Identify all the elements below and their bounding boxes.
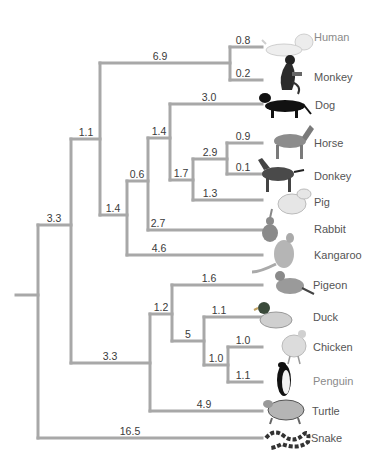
rabbit-icon — [262, 209, 278, 242]
taxon-label-dog: Dog — [315, 100, 335, 111]
taxon-label-donkey: Donkey — [314, 171, 351, 182]
branch-label-horse: 0.9 — [236, 131, 251, 142]
snake-icon — [266, 432, 309, 448]
pigeon-icon — [275, 271, 314, 294]
taxon-label-pig: Pig — [314, 197, 330, 208]
taxon-label-snake: Snake — [311, 433, 342, 444]
taxon-label-monkey: Monkey — [314, 72, 353, 83]
branch-label-internal: 3.3 — [103, 351, 118, 362]
branch-label-human: 0.8 — [236, 35, 251, 46]
branch-label-internal: 1.1 — [79, 127, 94, 138]
turtle-icon — [263, 400, 304, 424]
branch-label-pigeon: 1.6 — [202, 273, 217, 284]
branch-label-penguin: 1.1 — [236, 370, 251, 381]
taxon-label-penguin: Penguin — [313, 376, 353, 387]
phylogenetic-tree-diagram: 0.8 0.2 3.0 0.9 0.1 1.3 2.7 4.6 1.6 1.1 … — [0, 0, 378, 466]
branch-label-dog: 3.0 — [202, 92, 217, 103]
duck-icon — [254, 302, 292, 328]
branch-label-internal: 6.9 — [153, 51, 168, 62]
branch-label-kangaroo: 4.6 — [152, 243, 167, 254]
taxon-label-duck: Duck — [313, 312, 338, 323]
monkey-icon — [281, 55, 302, 94]
branch-label-internal: 0.6 — [130, 169, 145, 180]
branch-label-internal: 1.4 — [106, 203, 121, 214]
branch-label-internal: 1.0 — [209, 353, 224, 364]
branch-label-internal: 3.3 — [47, 213, 62, 224]
branch-label-snake: 16.5 — [120, 426, 140, 437]
dog-icon — [259, 93, 311, 118]
branch-label-pig: 1.3 — [203, 188, 218, 199]
branch-label-internal: 1.7 — [174, 168, 189, 179]
branch-label-monkey: 0.2 — [236, 68, 251, 79]
taxon-label-rabbit: Rabbit — [314, 224, 346, 235]
branch-label-rabbit: 2.7 — [151, 218, 166, 229]
pig-icon — [278, 189, 311, 214]
taxon-label-pigeon: Pigeon — [313, 280, 347, 291]
taxon-label-chicken: Chicken — [313, 342, 353, 353]
branch-label-internal: 1.2 — [154, 302, 169, 313]
branch-label-internal: 2.9 — [203, 147, 218, 158]
penguin-icon — [277, 362, 291, 396]
human-icon — [262, 34, 313, 56]
taxon-label-turtle: Turtle — [312, 406, 340, 417]
taxon-label-kangaroo: Kangaroo — [314, 250, 362, 261]
branch-label-turtle: 4.9 — [197, 399, 212, 410]
branch-label-duck: 1.1 — [212, 305, 227, 316]
branch-label-internal: 1.4 — [152, 126, 167, 137]
horse-icon — [274, 125, 314, 159]
taxon-label-horse: Horse — [314, 138, 343, 149]
taxon-label-human: Human — [314, 32, 349, 43]
branch-label-donkey: 0.1 — [236, 162, 251, 173]
chicken-icon — [282, 330, 306, 364]
branch-label-internal: 5 — [185, 329, 191, 340]
branch-label-chicken: 1.0 — [236, 335, 251, 346]
donkey-icon — [258, 158, 304, 192]
